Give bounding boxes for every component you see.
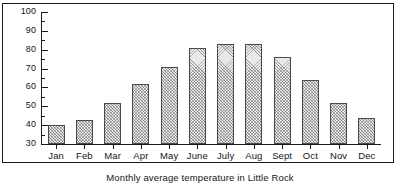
x-axis-tick [282, 145, 283, 149]
y-axis-tick-label: 100 [8, 7, 36, 16]
bar [217, 44, 234, 144]
bar [76, 120, 93, 145]
x-axis-tick [113, 145, 114, 149]
y-axis-tick-label: 30 [8, 139, 36, 148]
bar [274, 57, 291, 144]
x-axis-tick [56, 145, 57, 149]
y-axis-tick-label: 50 [8, 101, 36, 110]
y-axis-tick-label: 90 [8, 26, 36, 35]
bar [48, 125, 65, 144]
bar [302, 80, 319, 144]
x-axis-tick [254, 145, 255, 149]
bar [245, 44, 262, 144]
x-axis-line [41, 144, 381, 145]
bar [132, 84, 149, 144]
bar [161, 67, 178, 144]
chart-caption: Monthly average temperature in Little Ro… [0, 172, 400, 183]
bar [330, 103, 347, 144]
y-axis-tick-label: 40 [8, 120, 36, 129]
x-axis-tick [141, 145, 142, 149]
x-axis-tick [84, 145, 85, 149]
x-axis-tick [310, 145, 311, 149]
bar [358, 118, 375, 144]
x-axis-tick [197, 145, 198, 149]
x-axis-tick [367, 145, 368, 149]
y-axis-tick-label: 70 [8, 64, 36, 73]
x-axis-tick [226, 145, 227, 149]
bars-plot-area [42, 12, 381, 144]
x-axis-tick [169, 145, 170, 149]
y-axis-tick-label: 80 [8, 45, 36, 54]
bar [104, 103, 121, 144]
bar [189, 48, 206, 144]
chart-figure: 30405060708090100 JanFebMarAprMayJuneJul… [0, 0, 400, 191]
x-axis-tick [339, 145, 340, 149]
x-axis-category-label: Dec [347, 151, 387, 161]
y-axis-tick-label: 60 [8, 82, 36, 91]
